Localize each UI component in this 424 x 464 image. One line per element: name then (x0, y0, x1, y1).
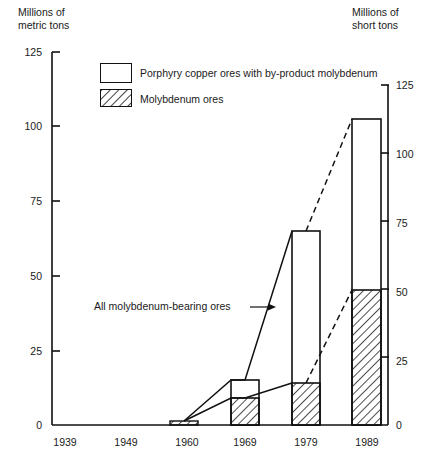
trend-line-total-ores-dashed (306, 119, 352, 231)
chart-figure: Millions of metric tons Millions of shor… (0, 0, 424, 464)
annotation-arrow-icon (268, 304, 276, 311)
bar-1979-molybdenum-ores (292, 383, 320, 425)
bar-1960-molybdenum-ores (170, 421, 198, 425)
plot-area (0, 0, 424, 464)
bar-1989-molybdenum-ores (352, 290, 381, 425)
bar-1969-molybdenum-ores (231, 398, 259, 425)
